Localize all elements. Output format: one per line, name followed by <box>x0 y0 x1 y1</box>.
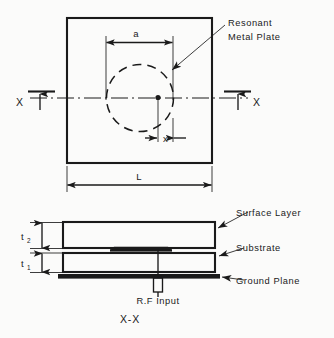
callout-substrate: Substrate <box>219 243 281 256</box>
dimension-t1-subscript: 1 <box>27 264 31 271</box>
dimension-x-offset: x <box>145 97 186 144</box>
callout-ground-plane: Ground Plane <box>222 276 300 286</box>
embedded-metal-plate <box>110 247 172 252</box>
dimension-t2-subscript: 2 <box>27 237 31 244</box>
section-marker-left: X <box>16 92 55 111</box>
callout-resonant-line2: Metal Plate <box>228 32 281 42</box>
dimension-t1-base: t <box>21 258 24 269</box>
antenna-diagram-svg: X X a x <box>0 0 334 338</box>
dimension-t1: t 1 <box>21 253 66 273</box>
callout-resonant-line1: Resonant <box>228 18 272 28</box>
coax-connector <box>154 278 163 297</box>
dimension-t2-base: t <box>21 231 24 242</box>
substrate-block <box>63 253 215 272</box>
callout-surface-layer-label: Surface Layer <box>236 208 301 218</box>
cross-section-title: X-X <box>120 313 140 325</box>
ground-plane-bar <box>58 274 220 279</box>
dimension-L-label: L <box>136 171 142 182</box>
dimension-L: L <box>67 166 212 192</box>
dimension-t2: t 2 <box>21 223 66 249</box>
callout-surface-layer: Surface Layer <box>218 208 301 228</box>
dimension-a-label: a <box>133 28 139 39</box>
rf-input-label: R.F Input <box>136 296 179 306</box>
callout-ground-plane-label: Ground Plane <box>236 276 300 286</box>
outer-plate-square <box>67 18 212 163</box>
section-marker-right: X <box>224 92 261 111</box>
callout-resonant-metal-plate: Resonant Metal Plate <box>172 18 281 70</box>
dimension-x-label: x <box>163 133 168 144</box>
callout-substrate-label: Substrate <box>236 243 281 253</box>
section-label-right: X <box>253 96 261 108</box>
section-label-left: X <box>16 96 24 108</box>
surface-layer-block <box>63 222 215 248</box>
figure-canvas: X X a x <box>0 0 334 338</box>
